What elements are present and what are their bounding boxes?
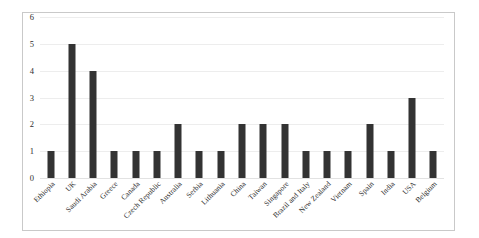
bar-chart-figure: 6543210 EthiopiaUKSaudi ArabiaGreeceCana…: [0, 0, 479, 238]
y-tick-label: 0: [30, 174, 34, 183]
bar: [238, 124, 245, 178]
y-tick-label: 1: [30, 147, 34, 156]
bar: [260, 124, 267, 178]
bar-slot: [40, 17, 61, 178]
bar-slot: [274, 17, 295, 178]
bar: [281, 124, 288, 178]
bar-slot: [83, 17, 104, 178]
y-tick-label: 2: [30, 120, 34, 129]
bar: [175, 124, 182, 178]
bar-slot: [104, 17, 125, 178]
bar-slot: [253, 17, 274, 178]
bar-slot: [125, 17, 146, 178]
bar: [153, 151, 160, 178]
bar-slot: [295, 17, 316, 178]
bar: [90, 71, 97, 178]
plot-area: 6543210: [40, 17, 444, 178]
x-axis-tick-label: USA: [401, 180, 417, 196]
bar-slot: [401, 17, 422, 178]
bar-slot: [231, 17, 252, 178]
bar-slot: [316, 17, 337, 178]
bar: [68, 44, 75, 178]
x-axis-labels: EthiopiaUKSaudi ArabiaGreeceCanadaCzech …: [40, 178, 444, 233]
x-axis-tick-label: Belgium: [415, 180, 439, 204]
bar: [111, 151, 118, 178]
bar: [409, 98, 416, 179]
bar: [196, 151, 203, 178]
bar: [387, 151, 394, 178]
bar: [345, 151, 352, 178]
x-axis-tick-label: Spain: [357, 180, 375, 198]
x-axis-tick-label: India: [380, 180, 397, 197]
bar-slot: [380, 17, 401, 178]
bars-series: [40, 17, 444, 178]
bar-slot: [61, 17, 82, 178]
x-axis-tick-label: Vietnam: [330, 180, 354, 204]
bar: [366, 124, 373, 178]
y-tick-label: 4: [30, 66, 34, 75]
bar: [430, 151, 437, 178]
bar-slot: [168, 17, 189, 178]
bar: [47, 151, 54, 178]
bar-slot: [359, 17, 380, 178]
x-axis-tick-label: UK: [64, 180, 77, 193]
x-axis-tick-label: China: [229, 180, 247, 198]
bar: [302, 151, 309, 178]
bar: [132, 151, 139, 178]
x-axis-tick-label: Australia: [158, 180, 183, 205]
bar-slot: [338, 17, 359, 178]
x-axis-tick-label: Greece: [99, 180, 120, 201]
bar-slot: [146, 17, 167, 178]
bar: [217, 151, 224, 178]
y-tick-label: 3: [30, 93, 34, 102]
y-tick-label: 6: [30, 13, 34, 22]
bar-slot: [189, 17, 210, 178]
bar-slot: [423, 17, 444, 178]
bar-slot: [210, 17, 231, 178]
bar: [324, 151, 331, 178]
y-tick-label: 5: [30, 40, 34, 49]
